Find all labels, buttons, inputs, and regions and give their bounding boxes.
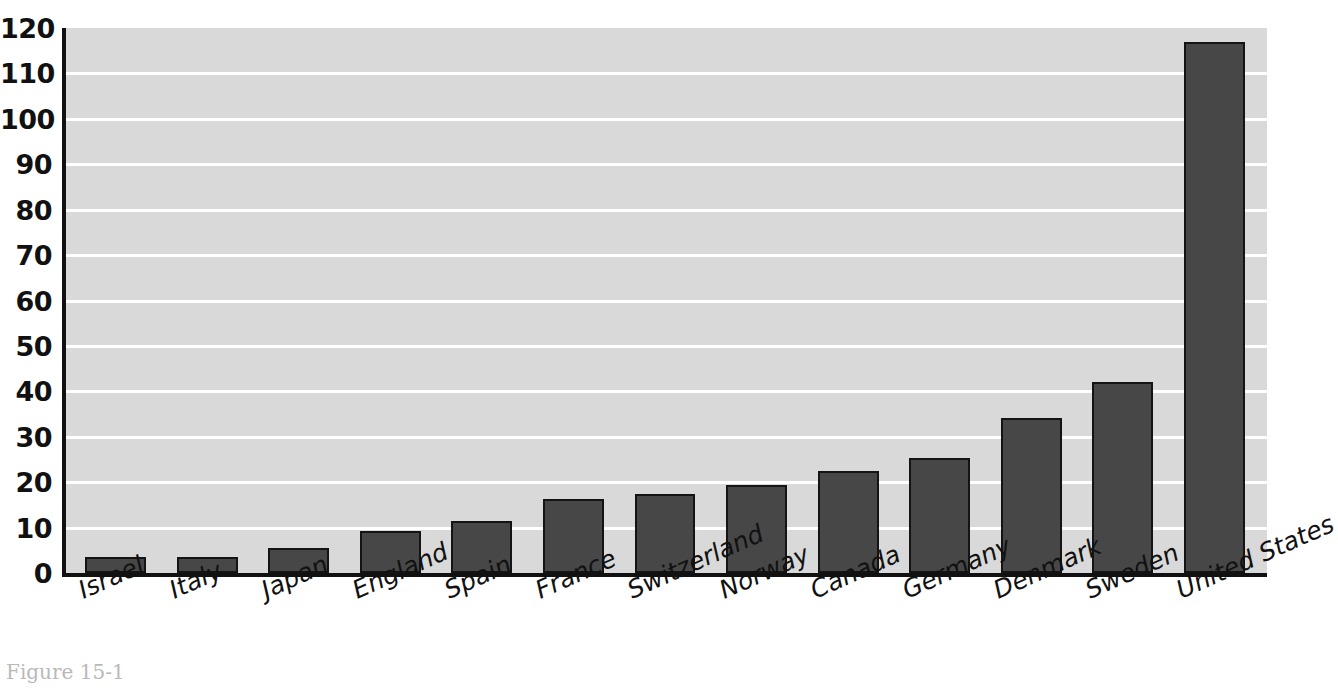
y-axis-tick-label: 70 [0,242,52,269]
y-axis-tick-label: 110 [0,60,52,87]
plot-area [62,28,1267,577]
y-axis-tick-label: 0 [0,560,52,587]
y-axis-tick-label: 20 [0,469,52,496]
bar [1184,42,1245,573]
y-axis: 1201101009080706050403020100 [0,0,58,600]
figure-caption: Figure 15-1 [6,660,125,684]
y-axis-tick-label: 80 [0,196,52,223]
y-axis-tick-label: 10 [0,514,52,541]
y-axis-tick-label: 60 [0,287,52,314]
y-axis-tick-label: 90 [0,151,52,178]
bar-series [66,28,1267,573]
x-axis: IsraelItalyJapanEnglandSpainFranceSwitze… [62,578,1267,668]
y-axis-tick-label: 100 [0,105,52,132]
y-axis-tick-label: 30 [0,423,52,450]
y-axis-tick-label: 50 [0,332,52,359]
y-axis-tick-label: 40 [0,378,52,405]
bar [1092,382,1153,573]
y-axis-tick-label: 120 [0,15,52,42]
